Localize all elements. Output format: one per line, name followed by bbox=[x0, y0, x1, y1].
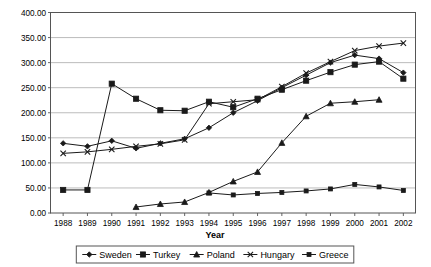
x-tick-label: 2001 bbox=[370, 219, 389, 228]
x-tick-label: 1995 bbox=[224, 219, 243, 228]
x-tick-label: 1999 bbox=[321, 219, 340, 228]
data-point-marker bbox=[231, 110, 236, 115]
chart-legend: SwedenTurkeyPolandHungaryGreece bbox=[76, 246, 354, 263]
legend-item-turkey[interactable]: Turkey bbox=[136, 250, 181, 260]
y-tick-label: 150.00 bbox=[21, 134, 46, 143]
series-line bbox=[63, 43, 403, 153]
data-point-marker bbox=[353, 182, 357, 186]
data-point-marker bbox=[401, 70, 406, 75]
data-point-marker bbox=[158, 108, 163, 113]
x-tick-label: 1988 bbox=[54, 219, 73, 228]
data-point-marker bbox=[109, 138, 114, 143]
data-point-marker bbox=[376, 59, 381, 64]
y-tick-label: 0.00 bbox=[30, 209, 46, 218]
data-point-marker bbox=[401, 188, 405, 192]
x-tick-label: 1994 bbox=[200, 219, 219, 228]
series-turkey bbox=[61, 59, 406, 193]
legend-item-poland[interactable]: Poland bbox=[190, 250, 235, 260]
x-tick-label: 2000 bbox=[346, 219, 365, 228]
x-tick-label: 1993 bbox=[176, 219, 195, 228]
legend-label: Hungary bbox=[260, 250, 295, 260]
data-point-marker bbox=[304, 78, 309, 83]
legend-label: Turkey bbox=[153, 250, 181, 260]
x-tick-label: 1992 bbox=[151, 219, 170, 228]
data-point-marker bbox=[231, 105, 236, 110]
x-tick-label: 1998 bbox=[297, 219, 316, 228]
legend-marker-sample bbox=[307, 253, 311, 257]
x-tick-label: 2002 bbox=[394, 219, 413, 228]
chart-container: 0.0050.00100.00150.00200.00250.00300.003… bbox=[0, 0, 431, 267]
x-tick-label: 1991 bbox=[127, 219, 146, 228]
y-tick-label: 300.00 bbox=[21, 59, 46, 68]
data-point-marker bbox=[182, 108, 187, 113]
data-point-marker bbox=[256, 191, 260, 195]
x-axis-tick-labels: 1988198919901991199219931994199519961997… bbox=[54, 219, 413, 228]
y-tick-label: 100.00 bbox=[21, 159, 46, 168]
data-point-marker bbox=[206, 125, 211, 130]
y-tick-label: 50.00 bbox=[26, 184, 47, 193]
data-point-marker bbox=[231, 193, 235, 197]
x-tick-label: 1997 bbox=[273, 219, 292, 228]
data-point-marker bbox=[401, 76, 406, 81]
legend-item-greece[interactable]: Greece bbox=[302, 250, 349, 260]
data-point-marker bbox=[352, 62, 357, 67]
y-tick-label: 400.00 bbox=[21, 9, 46, 18]
series-greece bbox=[207, 182, 405, 197]
data-point-marker bbox=[304, 189, 308, 193]
legend-marker-sample bbox=[87, 252, 92, 257]
data-point-marker bbox=[85, 144, 90, 149]
data-point-marker bbox=[133, 96, 138, 101]
data-point-marker bbox=[377, 185, 381, 189]
data-point-marker bbox=[280, 190, 284, 194]
series-line bbox=[136, 100, 379, 207]
data-point-marker bbox=[60, 141, 65, 146]
data-point-marker bbox=[303, 113, 309, 119]
y-tick-label: 350.00 bbox=[21, 34, 46, 43]
data-point-marker bbox=[328, 187, 332, 191]
data-point-marker bbox=[230, 178, 236, 184]
x-tick-label: 1990 bbox=[103, 219, 122, 228]
y-tick-label: 200.00 bbox=[21, 109, 46, 118]
data-point-marker bbox=[85, 187, 90, 192]
data-point-marker bbox=[207, 191, 211, 195]
legend-marker-sample bbox=[140, 252, 145, 257]
legend-item-sweden[interactable]: Sweden bbox=[82, 250, 132, 260]
legend-label: Poland bbox=[207, 250, 235, 260]
legend-label: Sweden bbox=[99, 250, 132, 260]
legend-label: Greece bbox=[319, 250, 349, 260]
data-point-marker bbox=[61, 187, 66, 192]
x-tick-label: 1996 bbox=[248, 219, 267, 228]
line-chart: 0.0050.00100.00150.00200.00250.00300.003… bbox=[0, 0, 431, 267]
y-tick-label: 250.00 bbox=[21, 84, 46, 93]
data-point-marker bbox=[328, 70, 333, 75]
x-tick-label: 1989 bbox=[78, 219, 97, 228]
data-series-group bbox=[60, 40, 406, 209]
data-point-marker bbox=[109, 81, 114, 86]
y-axis-tick-labels: 0.0050.00100.00150.00200.00250.00300.003… bbox=[21, 9, 51, 219]
x-axis-title: Year bbox=[205, 230, 225, 240]
legend-item-hungary[interactable]: Hungary bbox=[243, 250, 295, 260]
